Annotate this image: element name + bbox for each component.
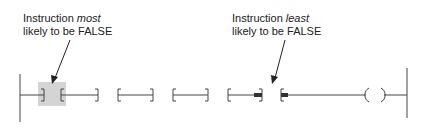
output-coil[interactable] xyxy=(365,88,385,102)
highlight-box xyxy=(38,82,66,106)
contact-instruction-2[interactable] xyxy=(95,89,121,101)
ladder-rung-diagram xyxy=(0,0,421,128)
contact-instruction-5[interactable] xyxy=(259,89,284,101)
arrow-least xyxy=(271,40,285,84)
contact-instruction-4[interactable] xyxy=(205,89,231,101)
bold-wire-end xyxy=(254,93,262,97)
contact-instruction-3[interactable] xyxy=(150,89,176,101)
bold-wire-end xyxy=(281,93,288,97)
arrow-most xyxy=(51,40,70,84)
